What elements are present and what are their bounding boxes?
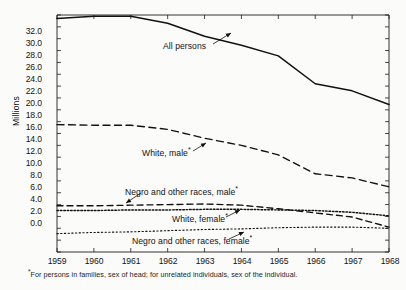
series-line-2 <box>57 204 389 227</box>
leader-all-persons-arrowhead <box>226 33 231 37</box>
series-line-1 <box>57 125 389 187</box>
series-line-4 <box>57 227 389 234</box>
axes-group <box>57 15 389 252</box>
chart-plot-area <box>0 0 406 290</box>
series-line-0 <box>57 16 389 104</box>
annotation-leader-lines <box>126 33 244 239</box>
series-line-3 <box>57 209 389 216</box>
leader-white-male-arrowhead <box>201 143 206 147</box>
leader-negro-other-male-arrowhead <box>126 198 131 203</box>
axis-ticks-group <box>57 15 389 252</box>
chart-figure: Millions 0.0 2.0 4.0 6.0 8.0 10.0 12.0 1… <box>0 0 406 290</box>
data-series-group <box>57 16 389 233</box>
